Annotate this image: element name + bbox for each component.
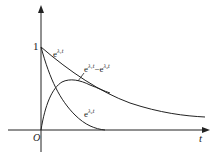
curve-exp-lambda1 [41, 47, 205, 117]
y-tick-label-one: 1 [33, 41, 39, 52]
y-axis-arrow-icon [38, 5, 44, 13]
label-exp-lambda2-exponent: λ₂t [88, 108, 94, 114]
x-axis-label: t [199, 133, 202, 144]
label-exp-lambda1: eλ₁t [53, 48, 63, 59]
origin-label: O [33, 133, 40, 143]
x-axis-arrow-icon [202, 127, 210, 133]
label-exp-lambda1-exponent: λ₁t [57, 48, 63, 54]
label-difference: eλ₁t−eλ₂t [84, 63, 110, 74]
label-difference-exponent2: λ₂t [103, 63, 109, 69]
curve-difference [41, 80, 110, 130]
difference-label-leader [78, 73, 84, 81]
label-exp-lambda2: eλ₂t [84, 108, 94, 119]
curve-exp-lambda2 [41, 47, 105, 130]
